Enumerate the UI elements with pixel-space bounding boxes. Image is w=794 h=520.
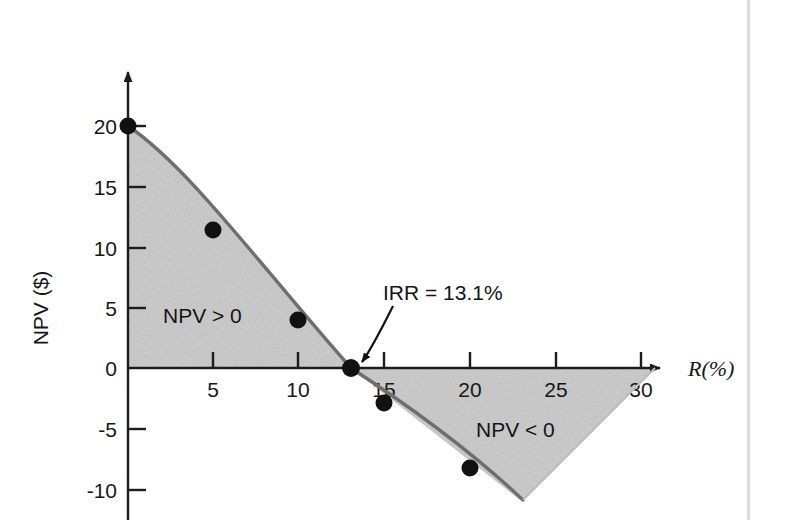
x-tick-label-10: 10 — [286, 378, 309, 401]
data-point-10 — [290, 312, 307, 329]
y-tick-label-15: 15 — [94, 176, 117, 199]
x-tick-label-25: 25 — [544, 378, 567, 401]
data-point-irr — [342, 359, 360, 377]
x-tick-label-5: 5 — [207, 378, 219, 401]
irr-leader-arrow — [362, 306, 393, 362]
x-axis-title: R(%) — [687, 356, 734, 381]
data-point-20 — [462, 460, 479, 477]
y-tick-label-0: 0 — [105, 357, 117, 380]
y-tick-label-10: 10 — [94, 237, 117, 260]
npv-profile-figure: 20 15 10 5 0 -5 -10 5 10 15 20 25 30 R(%… — [0, 0, 794, 520]
y-tick-label-20: 20 — [94, 115, 117, 138]
y-tick-label-5: 5 — [105, 297, 117, 320]
irr-annotation-label: IRR = 13.1% — [383, 281, 503, 304]
page-scan-edge — [746, 0, 751, 520]
npv-negative-label: NPV < 0 — [476, 418, 555, 441]
npv-profile-chart: 20 15 10 5 0 -5 -10 5 10 15 20 25 30 R(%… — [0, 0, 794, 520]
y-axis-title: NPV ($) — [29, 271, 52, 346]
y-tick-label-neg10: -10 — [87, 479, 117, 502]
y-tick-label-neg5: -5 — [98, 418, 117, 441]
data-point-5 — [205, 222, 222, 239]
data-point-0 — [120, 118, 137, 135]
npv-positive-label: NPV > 0 — [163, 304, 242, 327]
data-point-15 — [376, 395, 393, 412]
x-tick-label-20: 20 — [458, 378, 481, 401]
